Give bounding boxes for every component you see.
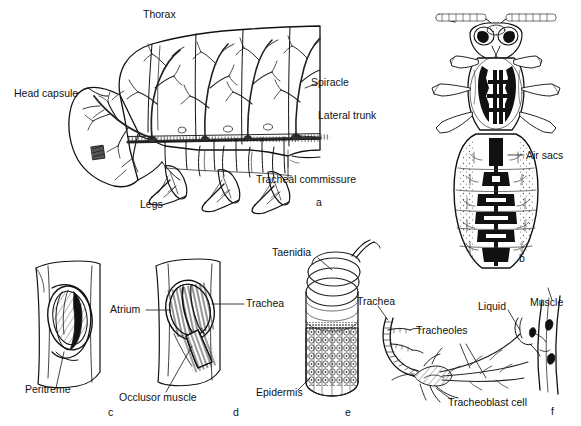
panel-letter-d: d: [233, 406, 239, 418]
label-head-capsule: Head capsule: [14, 88, 78, 99]
panel-letter-c: c: [108, 406, 113, 418]
figure-insect-tracheal-system: Thorax Head capsule Spiracle Lateral tru…: [0, 0, 581, 426]
label-trachea-d: Trachea: [246, 298, 284, 309]
figure-artwork: [0, 0, 581, 426]
panel-e-artwork: [298, 240, 380, 396]
label-spiracle: Spiracle: [311, 77, 349, 88]
label-legs: Legs: [140, 199, 163, 210]
panel-letter-e: e: [345, 406, 351, 418]
label-occlusor-muscle: Occlusor muscle: [119, 392, 197, 403]
panel-c-artwork: [36, 261, 100, 388]
label-thorax: Thorax: [143, 9, 176, 20]
label-epidermis: Epidermis: [256, 387, 303, 398]
label-tracheal-commissure: Tracheal commissure: [256, 174, 356, 185]
label-trachea-f: Trachea: [357, 296, 395, 307]
label-liquid: Liquid: [478, 301, 506, 312]
label-lateral-trunk: Lateral trunk: [318, 110, 376, 121]
label-peritreme: Peritreme: [25, 384, 71, 395]
panel-letter-a: a: [316, 196, 322, 208]
panel-a-artwork: [69, 26, 330, 214]
label-taenidia: Taenidia: [272, 247, 311, 258]
panel-letter-f: f: [551, 405, 554, 417]
panel-d-artwork: [146, 259, 244, 392]
label-tracheoblast-cell: Tracheoblast cell: [448, 397, 527, 408]
label-muscle: Muscle: [530, 297, 563, 308]
label-air-sacs: Air sacs: [526, 150, 563, 161]
label-atrium: Atrium: [110, 304, 140, 315]
label-tracheoles: Tracheoles: [416, 325, 468, 336]
panel-letter-b: b: [519, 252, 525, 264]
panel-b-artwork: [432, 14, 560, 268]
